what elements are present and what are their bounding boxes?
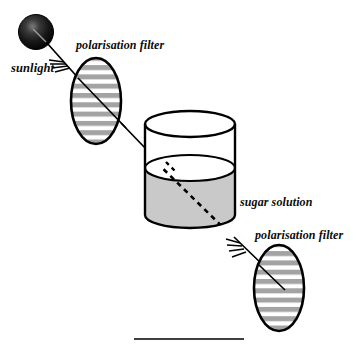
beaker-rim	[145, 111, 235, 137]
polarisation-filter-top[interactable]	[69, 56, 126, 148]
sugar-solution-beaker	[145, 111, 238, 242]
diagram-canvas	[0, 0, 364, 354]
label-sugar-solution: sugar solution	[240, 196, 312, 208]
label-polarisation-filter-bottom: polarisation filter	[255, 229, 343, 241]
label-sunlight: sunlight	[11, 62, 54, 75]
label-polarisation-filter-top: polarisation filter	[76, 39, 164, 51]
polarisation-filter-bottom[interactable]	[252, 243, 306, 335]
polarisation-diagram: sunlight polarisation filter sugar solut…	[0, 0, 364, 354]
